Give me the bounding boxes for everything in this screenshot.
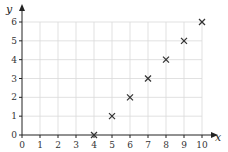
x-tick-label: 2 (55, 140, 61, 150)
axes (19, 4, 218, 138)
y-axis-label: y (5, 3, 13, 16)
y-tick-label: 3 (11, 74, 17, 84)
y-tick-label: 4 (11, 55, 17, 65)
grid-lines (22, 22, 202, 135)
x-tick-label: 3 (73, 140, 79, 150)
x-tick-label: 8 (163, 140, 169, 150)
x-axis-label: x (215, 131, 222, 144)
x-axis-ticks: 012345678910 (19, 135, 208, 150)
y-tick-label: 5 (11, 36, 17, 46)
y-tick-label: 1 (11, 111, 17, 121)
x-tick-label: 7 (145, 140, 151, 150)
x-tick-label: 1 (37, 140, 43, 150)
y-tick-label: 2 (11, 92, 17, 102)
x-tick-label: 0 (19, 140, 25, 150)
y-tick-label: 0 (11, 130, 17, 140)
y-axis-ticks: 0123456 (11, 17, 22, 140)
scatter-chart: 012345678910 0123456 x y (0, 0, 228, 152)
x-tick-label: 10 (196, 140, 208, 150)
x-tick-label: 9 (181, 140, 187, 150)
x-tick-label: 5 (109, 140, 115, 150)
y-axis-arrow-icon (19, 4, 25, 11)
y-tick-label: 6 (11, 17, 17, 27)
x-tick-label: 4 (91, 140, 97, 150)
x-tick-label: 6 (127, 140, 133, 150)
